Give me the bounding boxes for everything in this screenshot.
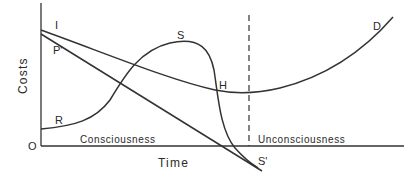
y-axis-label: Costs [16, 57, 30, 94]
label-R: R [55, 114, 63, 126]
label-S: S [177, 29, 184, 41]
label-P-prime: P' [53, 44, 62, 56]
x-axis-label: Time [158, 156, 189, 170]
label-H: H [219, 79, 227, 91]
label-S-prime: S' [258, 155, 267, 167]
label-D: D [373, 20, 381, 32]
region-unconsciousness: Unconsciousness [258, 134, 345, 145]
label-I: I [55, 19, 58, 31]
curve-I-H-D [41, 17, 393, 93]
origin-label: O [28, 140, 37, 152]
cost-time-diagram: I P' S H R D S' O Consciousness Unconsci… [0, 0, 419, 182]
region-consciousness: Consciousness [80, 134, 156, 145]
line-P-to-S-prime [41, 34, 262, 171]
